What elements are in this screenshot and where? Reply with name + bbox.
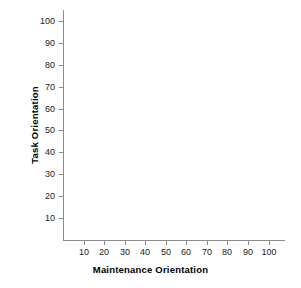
- y-tick-label: 100: [40, 16, 55, 26]
- x-tick-mark: [166, 241, 167, 245]
- y-tick-label: 40: [45, 147, 55, 157]
- y-tick-mark: [59, 109, 63, 110]
- y-tick-label: 10: [45, 213, 55, 223]
- y-tick-mark: [59, 21, 63, 22]
- x-tick-mark: [186, 241, 187, 245]
- y-axis-title: Task Orientation: [28, 10, 42, 240]
- y-tick-label: 60: [45, 104, 55, 114]
- x-tick-mark: [207, 241, 208, 245]
- y-tick-label: 90: [45, 38, 55, 48]
- chart-figure: 102030405060708090100 102030405060708090…: [0, 0, 301, 288]
- y-tick-mark: [59, 218, 63, 219]
- y-tick-label: 70: [45, 82, 55, 92]
- x-axis-title: Maintenance Orientation: [0, 264, 301, 275]
- y-tick-label: 50: [45, 125, 55, 135]
- y-tick-mark: [59, 87, 63, 88]
- y-tick-mark: [59, 43, 63, 44]
- y-tick-label: 80: [45, 60, 55, 70]
- y-axis-line: [63, 10, 64, 241]
- y-tick-mark: [59, 130, 63, 131]
- plot-area: [63, 10, 285, 240]
- x-tick-mark: [248, 241, 249, 245]
- y-tick-label: 30: [45, 169, 55, 179]
- x-tick-mark: [227, 241, 228, 245]
- x-tick-mark: [125, 241, 126, 245]
- x-tick-mark: [104, 241, 105, 245]
- y-tick-mark: [59, 65, 63, 66]
- x-tick-label: 100: [254, 247, 284, 257]
- x-axis-line: [63, 240, 285, 241]
- y-tick-mark: [59, 196, 63, 197]
- y-tick-mark: [59, 174, 63, 175]
- x-tick-mark: [145, 241, 146, 245]
- y-tick-label: 20: [45, 191, 55, 201]
- x-tick-mark: [269, 241, 270, 245]
- y-tick-mark: [59, 152, 63, 153]
- x-tick-mark: [84, 241, 85, 245]
